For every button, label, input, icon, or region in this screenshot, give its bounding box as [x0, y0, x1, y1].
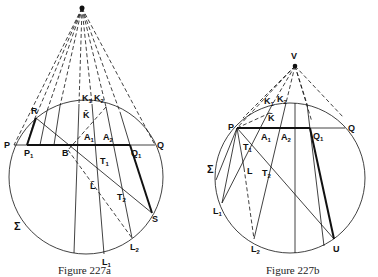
chords-b — [216, 103, 345, 253]
circle-sigma-b — [215, 103, 365, 253]
label-P1-a: P1 — [24, 148, 34, 159]
label-A2-a: A2 — [103, 132, 114, 143]
label-R-a: R — [31, 106, 38, 116]
label-A1-a: A1 — [84, 132, 95, 143]
label-K2-b: K2 — [277, 94, 288, 105]
label-Kbar-a: K̄ — [83, 110, 90, 120]
label-Q1-b: Q1 — [313, 131, 324, 142]
label-V-b: V — [291, 51, 297, 61]
caption-227a: Figure 227a — [58, 264, 111, 276]
label-T1-a: T1 — [100, 156, 110, 167]
label-P-a: P — [4, 140, 10, 150]
label-B-a: B — [62, 148, 69, 158]
diagram-canvas: P Q P1 Q1 R B K1 K2 K̄ A1 A2 T1 T2 L̄ S … — [0, 0, 378, 277]
label-K1-b: K1 — [264, 96, 275, 107]
label-T2-a: T2 — [117, 192, 127, 203]
label-Q-a: Q — [157, 140, 164, 150]
label-Sigma-a: Σ — [14, 220, 21, 232]
label-A2-b: A2 — [281, 132, 292, 143]
label-L-b: L — [247, 166, 253, 176]
projection-rays-b — [237, 66, 344, 128]
label-L2-a: L2 — [130, 242, 140, 253]
label-Sigma-b: Σ — [207, 163, 214, 175]
label-S-a: S — [152, 214, 158, 224]
projection-rays-a — [14, 8, 155, 145]
label-K2-a: K2 — [94, 93, 105, 104]
figure-227a: P Q P1 Q1 R B K1 K2 K̄ A1 A2 T1 T2 L̄ S … — [4, 6, 164, 277]
label-Q-b: Q — [348, 123, 355, 133]
label-U-b: U — [333, 244, 340, 254]
label-Q1-a: Q1 — [131, 148, 142, 159]
label-L2-b: L2 — [251, 244, 261, 255]
label-P-b: P — [228, 122, 234, 132]
label-A1-b: A1 — [261, 132, 272, 143]
figure-227b: V P Q Q1 K1 K2 K̄ A1 A2 T1 T2 L L1 L2 U … — [207, 51, 365, 276]
chords-a — [14, 104, 155, 254]
label-Lbar-a: L̄ — [90, 181, 96, 191]
label-Kbar-b: K̄ — [268, 113, 275, 123]
caption-227b: Figure 227b — [266, 264, 320, 276]
